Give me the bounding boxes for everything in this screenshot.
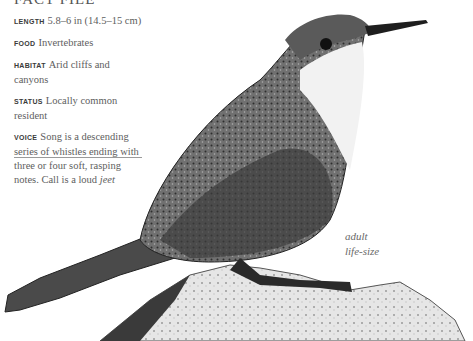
divider-rule: [14, 157, 142, 158]
fact-length: LENGTH5.8–6 in (14.5–15 cm): [14, 14, 146, 29]
bird-eye: [320, 38, 332, 50]
voice-call: jeet: [100, 174, 115, 185]
length-value: 5.8–6 in (14.5–15 cm): [48, 15, 142, 26]
fact-status: STATUSLocally common resident: [14, 94, 146, 123]
fact-file: FACT FILE LENGTH5.8–6 in (14.5–15 cm) FO…: [14, 0, 146, 194]
length-label: LENGTH: [14, 18, 45, 25]
status-label: STATUS: [14, 98, 43, 105]
bird-beak: [365, 20, 428, 36]
caption-age: adult: [345, 229, 379, 244]
fact-habitat: HABITATArid cliffs and canyons: [14, 58, 146, 87]
food-value: Invertebrates: [38, 37, 93, 48]
food-label: FOOD: [14, 40, 35, 47]
voice-label: VOICE: [14, 134, 37, 141]
illustration-caption: adult life-size: [345, 229, 379, 259]
fact-voice: VOICESong is a descending series of whis…: [14, 130, 146, 187]
habitat-label: HABITAT: [14, 62, 46, 69]
caption-scale: life-size: [345, 244, 379, 259]
fact-food: FOODInvertebrates: [14, 36, 146, 51]
fact-file-title: FACT FILE: [14, 0, 146, 8]
